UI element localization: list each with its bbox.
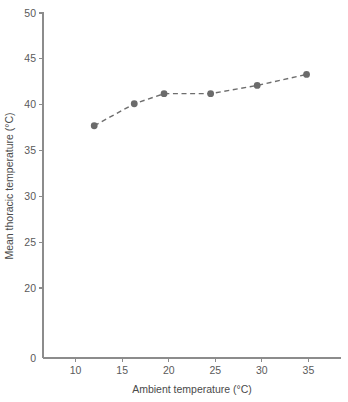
x-tick-label-35: 35 — [303, 364, 315, 376]
data-point — [161, 90, 168, 97]
x-axis-title: Ambient temperature (°C) — [132, 383, 252, 395]
y-tick-label-45: 45 — [24, 52, 36, 64]
data-point — [207, 90, 214, 97]
y-tick-label-0: 0 — [30, 352, 36, 364]
x-axis-ticks: 101520253035 — [70, 358, 315, 376]
data-point — [131, 100, 138, 107]
x-tick-label-10: 10 — [70, 364, 82, 376]
chart-container: 020253035404550 101520253035 Ambient tem… — [0, 0, 348, 402]
y-tick-label-40: 40 — [24, 98, 36, 110]
data-point — [303, 71, 310, 78]
x-tick-label-30: 30 — [256, 364, 268, 376]
y-tick-label-20: 20 — [24, 282, 36, 294]
y-tick-label-25: 25 — [24, 236, 36, 248]
y-tick-label-35: 35 — [24, 144, 36, 156]
x-tick-label-20: 20 — [163, 364, 175, 376]
y-tick-label-30: 30 — [24, 190, 36, 202]
series-line-mean-thoracic-temperature — [94, 74, 306, 125]
plot-area: 020253035404550 101520253035 Ambient tem… — [0, 0, 348, 402]
y-axis-ticks: 020253035404550 — [24, 7, 43, 364]
y-axis-title: Mean thoracic temperature (°C) — [3, 112, 15, 259]
y-tick-label-50: 50 — [24, 7, 36, 19]
x-tick-label-15: 15 — [116, 364, 128, 376]
series-markers — [91, 71, 310, 129]
data-point — [254, 82, 261, 89]
x-tick-label-25: 25 — [209, 364, 221, 376]
data-point — [91, 122, 98, 129]
